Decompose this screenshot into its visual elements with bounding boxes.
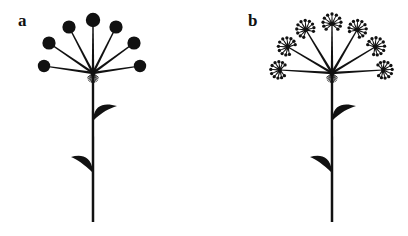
umbel-node-b — [330, 71, 334, 75]
umbellet-floret-b-6-6 — [390, 72, 393, 75]
umbellet-floret-b-2-6 — [304, 19, 307, 22]
umbellet-floret-b-5-3 — [374, 36, 377, 39]
umbellet-floret-b-1-6 — [281, 37, 284, 40]
umbellet-floret-b-6-0 — [376, 63, 379, 66]
flower-head-a-1 — [42, 36, 55, 49]
umbellet-floret-b-0-5 — [269, 68, 272, 71]
umbellet-floret-b-4-8 — [364, 31, 367, 34]
umbellet-floret-b-5-7 — [382, 49, 385, 52]
figure-background — [0, 0, 408, 236]
umbellet-floret-b-1-7 — [285, 36, 288, 39]
umbellet-floret-b-2-2 — [296, 31, 299, 34]
umbellet-floret-b-2-0 — [302, 36, 305, 39]
umbellet-floret-b-6-7 — [387, 75, 390, 78]
umbellet-floret-b-0-9 — [281, 61, 284, 64]
umbellet-floret-b-6-8 — [383, 76, 386, 79]
umbellet-floret-b-3-1 — [322, 25, 325, 28]
umbellet-floret-b-3-8 — [339, 21, 342, 24]
umbellet-floret-b-4-2 — [349, 23, 352, 26]
umbellet-floret-b-2-7 — [308, 20, 311, 23]
umbellet-floret-b-3-5 — [330, 12, 333, 15]
umbellet-floret-b-1-1 — [284, 53, 287, 56]
umbellet-floret-b-3-3 — [323, 17, 326, 20]
umbellet-floret-b-2-5 — [299, 20, 302, 23]
umbellet-node-b-2 — [304, 28, 308, 32]
umbellet-floret-b-6-1 — [379, 61, 382, 64]
umbellet-floret-b-5-4 — [379, 37, 382, 40]
umbellet-floret-b-3-4 — [326, 13, 329, 16]
umbellet-floret-b-1-9 — [292, 40, 295, 43]
umbellet-floret-b-4-9 — [361, 34, 364, 37]
flower-head-a-5 — [127, 36, 140, 49]
umbellet-node-b-3 — [330, 22, 334, 26]
umbellet-floret-b-0-10 — [283, 63, 286, 66]
umbellet-floret-b-0-2 — [276, 76, 279, 79]
umbellet-node-b-1 — [286, 45, 290, 49]
umbellet-floret-b-1-8 — [289, 37, 292, 40]
umbellet-floret-b-5-5 — [382, 40, 385, 43]
flower-head-a-6 — [134, 60, 146, 72]
umbellet-floret-b-2-9 — [312, 26, 315, 29]
umbellet-floret-b-3-7 — [338, 17, 341, 20]
umbellet-floret-b-2-4 — [296, 23, 299, 26]
umbellet-floret-b-6-4 — [389, 64, 392, 67]
panel-label-a: a — [18, 11, 27, 30]
umbellet-floret-b-1-5 — [278, 40, 281, 43]
umbellet-floret-b-5-8 — [379, 52, 382, 55]
umbellet-node-b-5 — [373, 45, 377, 49]
umbellet-floret-b-0-3 — [273, 75, 276, 78]
umbellet-floret-b-5-1 — [367, 40, 370, 43]
umbellet-floret-b-3-10 — [336, 28, 339, 31]
umbellet-floret-b-4-4 — [356, 19, 359, 22]
umbellet-floret-b-4-5 — [360, 20, 363, 23]
umbellet-node-b-0 — [278, 68, 282, 72]
umbellet-floret-b-1-0 — [288, 53, 291, 56]
main-stem-b — [331, 73, 334, 222]
umbellet-floret-b-3-6 — [335, 13, 338, 16]
umbellet-node-b-6 — [381, 68, 385, 72]
umbellet-floret-b-2-3 — [295, 27, 298, 30]
flower-head-a-2 — [62, 20, 75, 33]
umbellet-floret-b-4-10 — [358, 36, 361, 39]
umbellet-floret-b-4-7 — [365, 27, 368, 30]
umbellet-floret-b-2-8 — [311, 22, 314, 25]
umbellet-floret-b-4-0 — [348, 30, 351, 33]
umbellet-floret-b-0-8 — [277, 60, 280, 63]
umbellet-floret-b-3-2 — [321, 21, 324, 24]
flower-head-a-4 — [109, 20, 122, 33]
umbellet-floret-b-2-1 — [299, 34, 302, 37]
umbellet-floret-b-0-7 — [273, 61, 276, 64]
umbellet-floret-b-2-10 — [312, 30, 315, 33]
umbellet-floret-b-6-5 — [391, 68, 394, 71]
umbellet-floret-b-3-0 — [324, 28, 327, 31]
umbellet-floret-b-1-2 — [280, 52, 283, 55]
umbel-node-a — [91, 71, 95, 75]
umbellet-floret-b-1-10 — [294, 43, 297, 46]
umbellet-floret-b-6-9 — [380, 76, 383, 79]
umbellet-floret-b-0-6 — [270, 64, 273, 67]
umbel-diagram-svg: a b — [0, 0, 408, 236]
umbellet-floret-b-4-3 — [352, 20, 355, 23]
flower-head-a-0 — [38, 60, 50, 72]
umbellet-floret-b-5-2 — [370, 37, 373, 40]
umbellet-floret-b-3-9 — [339, 25, 342, 28]
umbellet-floret-b-1-4 — [277, 45, 280, 48]
umbellet-floret-b-6-10 — [377, 74, 380, 77]
umbellet-floret-b-6-3 — [386, 61, 389, 64]
umbellet-floret-b-5-0 — [366, 43, 369, 46]
umbellet-floret-b-5-10 — [372, 53, 375, 56]
umbellet-floret-b-0-4 — [270, 72, 273, 75]
umbellet-node-b-4 — [355, 28, 359, 32]
umbellet-floret-b-5-9 — [376, 53, 379, 56]
figure-root: a b — [0, 0, 408, 236]
panel-label-b: b — [248, 11, 257, 30]
umbellet-floret-b-0-1 — [280, 76, 283, 79]
umbellet-floret-b-4-1 — [347, 26, 350, 29]
umbellet-floret-b-1-3 — [278, 49, 281, 52]
flower-head-a-3 — [86, 13, 100, 27]
umbellet-floret-b-4-6 — [363, 23, 366, 26]
umbellet-floret-b-0-0 — [283, 74, 286, 77]
main-stem-a — [92, 73, 95, 222]
umbellet-floret-b-6-2 — [382, 60, 385, 63]
umbellet-floret-b-5-6 — [383, 45, 386, 48]
